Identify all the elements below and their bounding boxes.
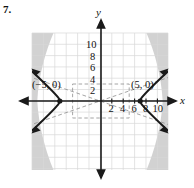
x-tick-label-10: 10: [153, 103, 164, 114]
y-tick-label-4: 4: [90, 74, 95, 85]
y-tick-label-6: 6: [90, 62, 95, 73]
y-axis-label: y: [96, 6, 101, 18]
figure-container: 7.: [0, 0, 194, 188]
x-axis-label: x: [180, 94, 185, 106]
hyperbola-graph: [0, 0, 194, 188]
y-tick-label-8: 8: [90, 51, 95, 62]
x-tick-label-6: 6: [132, 103, 137, 114]
vertex-label-right: (5, 0): [131, 79, 154, 90]
x-tick-label-8: 8: [143, 103, 148, 114]
y-tick-label-2: 2: [90, 85, 95, 96]
x-tick-label-4: 4: [120, 103, 125, 114]
x-tick-label-2: 2: [109, 103, 114, 114]
y-tick-label-10: 10: [86, 39, 97, 50]
vertex-label-left: (−5, 0): [32, 79, 61, 90]
